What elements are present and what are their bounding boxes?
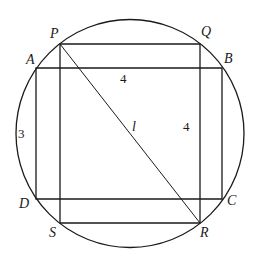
label-r: R [199, 225, 209, 240]
label-c: C [227, 193, 237, 208]
geometry-diagram: P Q A B D C S R 4 3 4 l [0, 0, 254, 260]
label-q: Q [201, 24, 211, 39]
measure-left-height: 3 [18, 126, 25, 141]
diagonal-pr [60, 44, 200, 223]
label-p: P [49, 26, 59, 41]
label-d: D [18, 196, 29, 211]
rectangle-abcd [36, 68, 222, 199]
label-b: B [224, 51, 233, 66]
label-a: A [25, 52, 35, 67]
measure-top-width: 4 [120, 71, 127, 86]
measure-right-height: 4 [183, 119, 190, 134]
label-s: S [49, 225, 56, 240]
measure-diagonal: l [132, 119, 136, 134]
